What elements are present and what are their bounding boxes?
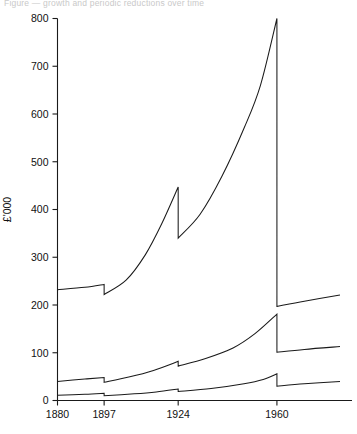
y-axis: 0100200300400500600700800 <box>31 12 58 406</box>
y-axis-title: £'000 <box>1 197 13 223</box>
y-tick-label: 300 <box>31 251 49 263</box>
y-tick-label: 700 <box>31 60 49 72</box>
y-tick-label: 400 <box>31 203 49 215</box>
y-tick-label: 100 <box>31 347 49 359</box>
series-line-upper <box>58 19 341 307</box>
chart-container: Figure — growth and periodic reductions … <box>0 0 357 434</box>
y-tick-label: 0 <box>43 394 49 406</box>
y-tick-label: 600 <box>31 108 49 120</box>
y-tick-label: 800 <box>31 12 49 24</box>
series-layer <box>58 19 341 396</box>
y-tick-label: 500 <box>31 156 49 168</box>
line-chart: 0100200300400500600700800 18801897192419… <box>0 0 357 434</box>
x-tick-label: 1880 <box>46 408 70 420</box>
x-tick-label: 1897 <box>92 408 116 420</box>
x-tick-label: 1960 <box>265 408 289 420</box>
series-line-lower <box>58 374 341 396</box>
x-axis: 1880189719241960 <box>46 401 352 420</box>
y-tick-label: 200 <box>31 299 49 311</box>
x-tick-label: 1924 <box>166 408 190 420</box>
y-axis-title-text: £'000 <box>1 197 13 223</box>
series-line-middle <box>58 314 341 382</box>
